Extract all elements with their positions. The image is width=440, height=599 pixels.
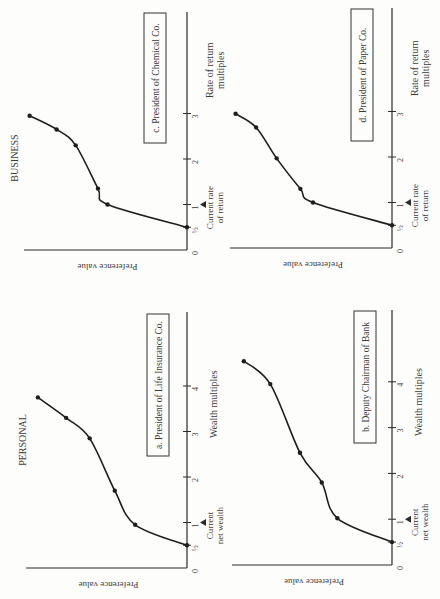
- panel-title: a. President of Life Insurance Co.: [154, 321, 164, 449]
- data-point: [36, 395, 40, 399]
- x-tick-label: 0: [396, 249, 405, 253]
- panel-c: 0½123Current rateof returnRate of return…: [9, 12, 226, 272]
- data-point: [133, 523, 137, 527]
- current-marker-label: net wealth: [215, 506, 225, 544]
- data-point: [298, 187, 302, 191]
- data-point: [113, 488, 117, 492]
- data-point: [254, 125, 258, 129]
- figure-canvas: 0½1234Currentnet wealthWealth multiplesP…: [0, 0, 440, 599]
- utility-curves-figure: 0½1234Currentnet wealthWealth multiplesP…: [0, 0, 440, 599]
- utility-curve: [236, 114, 392, 225]
- x-tick-label: 3: [396, 429, 405, 433]
- data-point: [311, 200, 315, 204]
- x-axis-title: multiples: [215, 52, 226, 89]
- current-marker-label: Current rate: [410, 184, 420, 227]
- x-tick-label: 0: [396, 566, 405, 570]
- data-point: [185, 543, 189, 547]
- x-tick-label: 3: [396, 113, 405, 117]
- data-point: [185, 225, 189, 229]
- y-axis-title: Preference value: [284, 577, 344, 587]
- current-marker-label: Current rate: [205, 186, 215, 229]
- x-tick-label: ½: [191, 227, 200, 233]
- data-point: [390, 540, 394, 544]
- x-tick-label: 1: [396, 204, 405, 208]
- x-tick-label: 2: [396, 474, 405, 478]
- x-tick-label: 2: [191, 160, 200, 164]
- y-axis-title: Preference value: [78, 580, 138, 590]
- current-marker-label: Current: [205, 511, 215, 539]
- x-tick-label: 2: [396, 158, 405, 162]
- x-tick-label: 1: [191, 206, 200, 210]
- current-marker-label: of return: [420, 189, 430, 221]
- x-tick-label: ½: [396, 542, 405, 548]
- x-tick-label: 0: [191, 569, 200, 573]
- panel-d: 0½123Current rateof returnRate of return…: [230, 8, 431, 270]
- data-point: [298, 451, 302, 455]
- x-tick-label: 1: [191, 524, 200, 528]
- panel-a: 0½1234Currentnet wealthWealth multiplesP…: [17, 312, 225, 590]
- current-marker-label: Current: [410, 508, 420, 536]
- data-point: [320, 480, 324, 484]
- data-point: [87, 436, 91, 440]
- data-point: [96, 186, 100, 190]
- utility-curve: [38, 397, 187, 545]
- x-axis-title: multiples: [420, 50, 431, 87]
- data-point: [274, 156, 278, 160]
- data-point: [233, 112, 237, 116]
- current-marker-label: net wealth: [420, 503, 430, 541]
- x-tick-label: 4: [396, 383, 405, 387]
- panel-title: b. Deputy Chairman of Bank: [361, 322, 371, 432]
- data-point: [27, 114, 31, 118]
- data-point: [64, 416, 68, 420]
- data-point: [54, 127, 58, 131]
- y-axis-title: Preference value: [283, 260, 343, 270]
- x-tick-label: ½: [396, 225, 405, 231]
- data-point: [74, 143, 78, 147]
- x-axis-title: Wealth multiples: [413, 368, 424, 436]
- x-axis-title: Wealth multiples: [208, 370, 219, 438]
- x-tick-label: ½: [191, 545, 200, 551]
- x-tick-label: 4: [191, 387, 200, 391]
- data-point: [335, 516, 339, 520]
- x-tick-label: 3: [191, 115, 200, 119]
- x-tick-label: 0: [191, 251, 200, 255]
- section-header: PERSONAL: [17, 414, 28, 466]
- data-point: [242, 359, 246, 363]
- y-axis-title: Preference value: [77, 262, 137, 272]
- panel-title: d. President of Paper Co.: [358, 28, 368, 123]
- utility-curve: [30, 116, 187, 227]
- current-marker-label: of return: [215, 191, 225, 223]
- section-header: BUSINESS: [9, 134, 20, 181]
- x-tick-label: 1: [396, 520, 405, 524]
- x-axis-title: Rate of return: [409, 41, 420, 97]
- panel-title: c. President of Chemical Co.: [151, 23, 161, 132]
- data-point: [390, 223, 394, 227]
- panel-b: 0½1234Currentnet wealthWealth multiplesP…: [232, 310, 430, 587]
- x-tick-label: 3: [191, 433, 200, 437]
- data-point: [105, 202, 109, 206]
- x-tick-label: 2: [191, 478, 200, 482]
- data-point: [268, 382, 272, 386]
- x-axis-title: Rate of return: [204, 43, 215, 99]
